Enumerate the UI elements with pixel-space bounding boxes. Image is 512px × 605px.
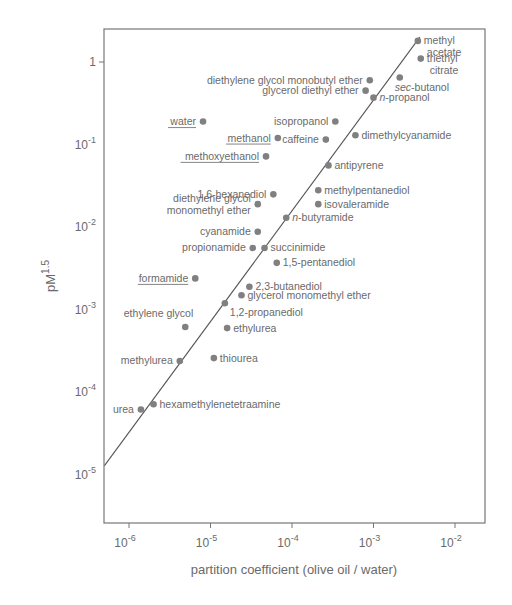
- y-tick-label: 10-1: [75, 135, 96, 152]
- point-label: glycerol diethyl ether: [262, 84, 359, 96]
- point-marker: [200, 118, 207, 125]
- y-tick-label: 10-5: [75, 465, 96, 482]
- point-marker: [396, 74, 403, 81]
- point-marker: [275, 135, 282, 142]
- data-point: n-propanol: [370, 91, 430, 103]
- point-label: water: [169, 115, 196, 127]
- data-point: antipyrene: [325, 159, 383, 171]
- data-point: isopropanol: [274, 115, 339, 127]
- data-points: methylacetatetriethylcitratesec-butanold…: [113, 34, 462, 415]
- point-label: methanol: [228, 132, 271, 144]
- point-label: ethylene glycol: [124, 307, 193, 319]
- data-point: isovaleramide: [315, 198, 389, 210]
- point-marker: [283, 214, 290, 221]
- point-label: urea: [113, 403, 134, 415]
- point-marker: [192, 275, 199, 282]
- data-point: methoxyethanol: [181, 150, 270, 163]
- point-marker: [417, 55, 424, 62]
- data-point: glycerol diethyl ether: [262, 84, 369, 96]
- y-tick-label: 10-3: [75, 300, 96, 317]
- point-marker: [362, 87, 369, 94]
- data-point: glycerol monomethyl ether: [238, 289, 371, 301]
- y-axis-title: pM1.5: [40, 260, 58, 292]
- point-marker: [323, 136, 330, 143]
- point-marker: [254, 228, 261, 235]
- data-point: succinimide: [261, 241, 325, 253]
- data-point: 1,2-propanediol: [222, 300, 303, 318]
- svg-text:pM1.5: pM1.5: [40, 260, 58, 292]
- point-label: propionamide: [182, 241, 246, 253]
- data-point: ethylene glycol: [124, 307, 193, 330]
- point-label: isovaleramide: [324, 198, 389, 210]
- point-marker: [325, 162, 332, 169]
- data-point: cyanamide: [200, 225, 261, 237]
- point-label: cyanamide: [200, 225, 251, 237]
- data-point: triethylcitrate: [417, 52, 458, 76]
- point-label: diethylene glycol: [173, 192, 251, 204]
- point-label: thiourea: [220, 352, 258, 364]
- point-label: antipyrene: [334, 159, 383, 171]
- x-tick-label: 10-4: [277, 533, 298, 550]
- point-label: hexamethylenetetraamine: [160, 398, 281, 410]
- point-label: formamide: [139, 272, 189, 284]
- point-marker: [273, 260, 280, 267]
- data-point: ethylurea: [224, 322, 277, 334]
- data-point: diethylene glycolmonomethyl ether: [167, 192, 261, 216]
- data-point: formamide: [138, 272, 199, 285]
- data-point: dimethylcyanamide: [352, 129, 451, 141]
- point-marker: [182, 324, 189, 331]
- x-tick-label: 10-5: [196, 533, 217, 550]
- point-marker: [415, 38, 422, 45]
- point-marker: [352, 132, 359, 139]
- data-point: urea: [113, 403, 144, 415]
- point-label: ethylurea: [233, 322, 276, 334]
- chart: 10-610-510-410-310-2 110-110-210-310-410…: [0, 0, 512, 605]
- point-label: methylurea: [121, 354, 173, 366]
- point-label: methoxyethanol: [185, 150, 259, 162]
- point-label: methyl: [424, 34, 455, 46]
- y-tick-label: 10-4: [75, 382, 96, 399]
- point-label: citrate: [430, 64, 459, 76]
- point-marker: [254, 201, 261, 208]
- point-label: 1,2-propanediol: [230, 306, 303, 318]
- point-marker: [249, 245, 256, 252]
- point-marker: [270, 191, 277, 198]
- point-marker: [238, 292, 245, 299]
- point-marker: [211, 355, 218, 362]
- point-marker: [263, 153, 270, 160]
- x-axis-ticks: 10-610-510-410-310-2: [114, 523, 461, 550]
- data-point: caffeine: [282, 133, 329, 145]
- point-label: caffeine: [282, 133, 319, 145]
- point-label: methylpentanediol: [324, 184, 409, 196]
- data-point: methylurea: [121, 354, 183, 366]
- data-point: hexamethylenetetraamine: [150, 398, 280, 410]
- point-label: n-propanol: [380, 91, 430, 103]
- point-label: 1,5-pentanediol: [283, 256, 355, 268]
- point-label: glycerol monomethyl ether: [247, 289, 371, 301]
- data-point: thiourea: [211, 352, 258, 364]
- y-axis-title-exp: 1.5: [40, 260, 51, 274]
- point-label: monomethyl ether: [167, 204, 252, 216]
- data-point: n-butyramide: [283, 211, 354, 223]
- data-point: propionamide: [182, 241, 256, 253]
- point-marker: [315, 201, 322, 208]
- point-marker: [366, 77, 373, 84]
- point-marker: [150, 401, 157, 408]
- x-axis-title: partition coefficient (olive oil / water…: [191, 562, 397, 577]
- point-label: n-butyramide: [292, 211, 353, 223]
- y-tick-label: 1: [89, 55, 96, 69]
- point-marker: [176, 358, 183, 365]
- x-tick-label: 10-2: [440, 533, 461, 550]
- point-marker: [332, 118, 339, 125]
- data-point: methylpentanediol: [315, 184, 410, 196]
- point-label: dimethylcyanamide: [361, 129, 451, 141]
- point-label: isopropanol: [274, 115, 328, 127]
- point-marker: [370, 94, 377, 101]
- y-axis-ticks: 110-110-210-310-410-5: [75, 55, 104, 482]
- y-tick-label: 10-2: [75, 217, 96, 234]
- point-label: triethyl: [427, 52, 458, 64]
- x-tick-label: 10-3: [359, 533, 380, 550]
- y-axis-title-base: pM: [43, 274, 58, 292]
- point-marker: [261, 245, 268, 252]
- point-label: succinimide: [271, 241, 326, 253]
